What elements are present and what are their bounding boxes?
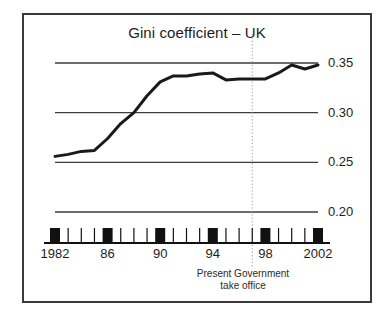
x-axis-major-tick bbox=[155, 228, 165, 243]
x-axis-major-tick bbox=[208, 228, 218, 243]
x-axis-tick-label: 94 bbox=[206, 246, 220, 261]
x-axis-major-tick bbox=[50, 228, 60, 243]
chart-figure: Gini coefficient – UK 0.350.300.250.20 1… bbox=[0, 0, 388, 315]
x-axis-major-tick bbox=[260, 228, 270, 243]
y-axis-tick-label: 0.25 bbox=[328, 154, 353, 169]
x-axis-major-tick bbox=[313, 228, 323, 243]
x-axis-tick-label: 2002 bbox=[304, 246, 333, 261]
data-line-group bbox=[55, 65, 318, 156]
x-axis-tick-label: 1982 bbox=[41, 246, 70, 261]
y-axis-tick-label: 0.20 bbox=[328, 204, 353, 219]
x-axis-group bbox=[44, 228, 330, 243]
x-axis-tick-label: 86 bbox=[100, 246, 114, 261]
annotation-line-1: Present Government bbox=[197, 268, 289, 280]
y-axis-tick-label: 0.30 bbox=[328, 105, 353, 120]
annotation-line-2: take office bbox=[197, 280, 289, 292]
x-axis-tick-label: 90 bbox=[153, 246, 167, 261]
data-line bbox=[55, 65, 318, 156]
annotation-text: Present Government take office bbox=[197, 268, 289, 292]
gridlines-group bbox=[55, 63, 318, 212]
x-axis-major-tick bbox=[103, 228, 113, 243]
x-axis-tick-label: 98 bbox=[258, 246, 272, 261]
y-axis-tick-label: 0.35 bbox=[328, 55, 353, 70]
